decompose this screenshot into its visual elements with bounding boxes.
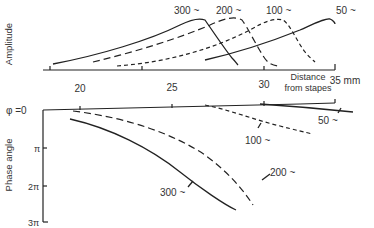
amplitude-curve-100 bbox=[117, 19, 315, 66]
phase-label-100: 100 ~ bbox=[245, 135, 270, 146]
phase-tick-pi: π bbox=[34, 144, 40, 154]
phase-tick-2pi: 2π bbox=[28, 182, 39, 192]
tick-20: 20 bbox=[74, 83, 86, 94]
phase-tick-3pi: 3π bbox=[28, 218, 39, 228]
phase-curve-100 bbox=[205, 105, 312, 134]
label-50: 50 ~ bbox=[336, 5, 356, 16]
phase-label-300: 300 ~ bbox=[160, 187, 185, 198]
phase-curve-300 bbox=[70, 119, 236, 210]
amplitude-axis-label: Amplitude bbox=[3, 23, 14, 65]
phase-axis-label: Phase angle bbox=[3, 139, 14, 192]
phase-panel: Phase angle φ =0 π 2π 3π 50 ~ 100 ~ 200 … bbox=[3, 99, 353, 228]
tick-30: 30 bbox=[258, 79, 270, 90]
phase-label-200: 200 ~ bbox=[270, 167, 295, 178]
distance-label-line2: from stapes bbox=[284, 83, 332, 93]
phase-label-50: 50 ~ bbox=[318, 115, 338, 126]
tick-25: 25 bbox=[166, 82, 178, 93]
label-300: 300 ~ bbox=[174, 5, 199, 16]
amplitude-curve-50 bbox=[205, 19, 335, 60]
phase-tick-0: φ =0 bbox=[6, 105, 27, 116]
distance-label-line1: Distance bbox=[290, 72, 325, 82]
amplitude-panel: Amplitude 300 ~ 200 ~ 100 ~ 50 ~ 20 25 3… bbox=[3, 5, 360, 94]
label-200: 200 ~ bbox=[216, 5, 241, 16]
tick-35: 35 mm bbox=[330, 75, 361, 86]
cochlea-diagram: Amplitude 300 ~ 200 ~ 100 ~ 50 ~ 20 25 3… bbox=[0, 0, 374, 228]
label-100: 100 ~ bbox=[266, 5, 291, 16]
amplitude-curve-200 bbox=[93, 18, 280, 66]
